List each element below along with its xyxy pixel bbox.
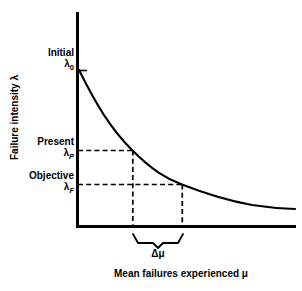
chart-figure: Failure intensity λ Initial λ0 Present λ… <box>0 0 302 291</box>
objective-subscript: F <box>69 186 74 195</box>
present-intensity-label: Present λP <box>12 136 74 162</box>
failure-intensity-curve <box>79 70 295 209</box>
x-axis-label: Mean failures experienced μ <box>61 268 301 279</box>
present-subscript: P <box>69 152 74 161</box>
objective-intensity-label: Objective λF <box>6 170 74 196</box>
objective-label-text: Objective <box>29 170 74 181</box>
initial-intensity-label: Initial λ0 <box>18 47 74 73</box>
delta-mu-label: Δμ <box>130 248 186 259</box>
present-label-text: Present <box>37 136 74 147</box>
initial-subscript: 0 <box>70 63 74 72</box>
delta-mu-brace <box>133 234 183 248</box>
initial-label-text: Initial <box>48 47 74 58</box>
